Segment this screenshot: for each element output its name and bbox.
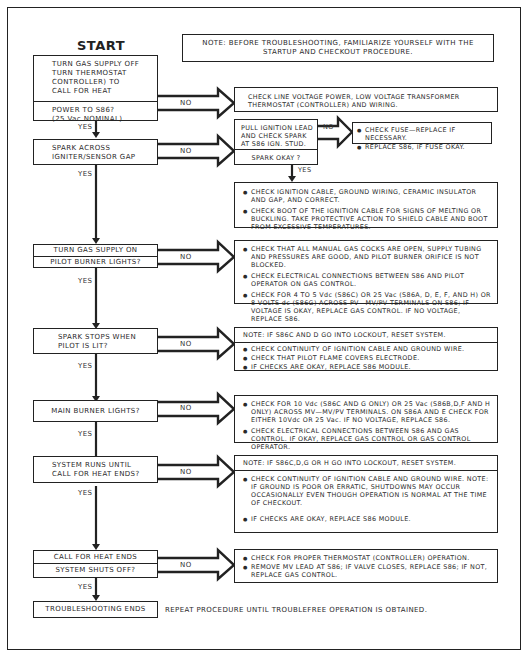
bullet-item: CHECK ELECTRICAL CONNECTIONS BETWEEN S86… bbox=[243, 272, 491, 288]
no-label: NO bbox=[180, 404, 192, 412]
step-3-question: PILOT BURNER LIGHTS? bbox=[34, 256, 157, 267]
question-line: (25 Vac NOMINAL) bbox=[52, 115, 157, 124]
step-7-question: SYSTEM SHUTS OFF? bbox=[34, 563, 157, 575]
yes-label: YES bbox=[78, 123, 92, 131]
bullet-item: IF CHECKS ARE OKAY, REPLACE S86 MODULE. bbox=[243, 363, 491, 371]
step-4-no-result: NOTE: IF S86C AND D GO INTO LOCKOUT, RES… bbox=[234, 327, 498, 371]
end-note: REPEAT PROCEDURE UNTIL TROUBLEFREE OPERA… bbox=[165, 606, 427, 615]
start-label: START bbox=[77, 38, 125, 53]
bullet-item: REMOVE MV LEAD AT S86; IF VALVE CLOSES, … bbox=[243, 563, 491, 579]
no-label: NO bbox=[180, 253, 192, 261]
no-label: NO bbox=[180, 468, 192, 476]
spark-check-action: PULL IGNITION LEAD AND CHECK SPARK AT S8… bbox=[235, 120, 317, 149]
step-7-no-result: CHECK FOR PROPER THERMOSTAT (CONTROLLER)… bbox=[234, 549, 498, 583]
step-1-question: POWER TO S86? (25 Vac NOMINAL) bbox=[34, 101, 157, 125]
bullet-item: REPLACE S86, IF FUSE OKAY. bbox=[357, 143, 491, 151]
action-line: CALL FOR HEAT bbox=[52, 87, 157, 96]
spark-check-box[interactable]: PULL IGNITION LEAD AND CHECK SPARK AT S8… bbox=[234, 119, 318, 165]
question-line: CALL FOR HEAT ENDS? bbox=[52, 470, 157, 479]
step-5-no-result: CHECK FOR 10 Vdc (S86C AND G ONLY) OR 25… bbox=[234, 395, 498, 443]
bullet-item: CHECK FUSE—REPLACE IF NECESSARY. bbox=[357, 126, 491, 142]
no-label: NO bbox=[180, 561, 192, 569]
spark-yes-result: CHECK IGNITION CABLE, GROUND WIRING, CER… bbox=[234, 182, 498, 228]
no-label: NO bbox=[180, 147, 192, 155]
yes-label: YES bbox=[78, 277, 92, 285]
spark-no-result: CHECK FUSE—REPLACE IF NECESSARY. REPLACE… bbox=[352, 122, 492, 144]
bullet-item: CHECK CONTINUITY OF IGNITION CABLE AND G… bbox=[243, 475, 491, 507]
yes-label: YES bbox=[78, 430, 92, 438]
step-4-checks: CHECK CONTINUITY OF IGNITION CABLE AND G… bbox=[235, 342, 497, 371]
action-line: TURN THERMOSTAT bbox=[52, 69, 157, 78]
step-7-action: CALL FOR HEAT ENDS bbox=[34, 551, 157, 563]
bullet-item: CHECK FOR 10 Vdc (S86C AND G ONLY) OR 25… bbox=[243, 400, 491, 424]
end-label: TROUBLESHOOTING ENDS bbox=[34, 605, 157, 614]
bullet-item: CHECK FOR 4 TO 5 Vdc (S86C) OR 25 Vac (S… bbox=[243, 291, 491, 323]
bullet-item: CHECK ELECTRICAL CONNECTIONS BETWEEN S86… bbox=[243, 427, 491, 451]
yes-label: YES bbox=[78, 583, 92, 591]
bullet-item: CHECK CONTINUITY OF IGNITION CABLE AND G… bbox=[243, 345, 491, 353]
step-4-box[interactable]: SPARK STOPS WHEN PILOT IS LIT? bbox=[33, 328, 158, 354]
bullet-item: IF CHECKS ARE OKAY, REPLACE S86 MODULE. bbox=[243, 515, 491, 523]
yes-label: YES bbox=[78, 362, 92, 370]
step-4-note: NOTE: IF S86C AND D GO INTO LOCKOUT, RES… bbox=[235, 328, 497, 342]
result-line: THERMOSTAT (CONTROLLER) AND WIRING. bbox=[248, 101, 497, 109]
result-line: CHECK LINE VOLTAGE POWER, LOW VOLTAGE TR… bbox=[248, 93, 497, 101]
step-2-box[interactable]: SPARK ACROSS IGNITER/SENSOR GAP bbox=[33, 139, 158, 165]
step-6-note: NOTE: IF S86C,D,G OR H GO INTO LOCKOUT, … bbox=[235, 456, 497, 470]
action-line: AND CHECK SPARK bbox=[241, 132, 317, 140]
step-5-box[interactable]: MAIN BURNER LIGHTS? bbox=[33, 400, 158, 422]
action-line: TURN GAS SUPPLY OFF bbox=[52, 60, 157, 69]
step-3-no-result: CHECK THAT ALL MANUAL GAS COCKS ARE OPEN… bbox=[234, 240, 498, 304]
action-line: AT S86 IGN. STUD. bbox=[241, 140, 317, 148]
bullet-item: CHECK THAT ALL MANUAL GAS COCKS ARE OPEN… bbox=[243, 245, 491, 269]
step-7-box[interactable]: CALL FOR HEAT ENDS SYSTEM SHUTS OFF? bbox=[33, 550, 158, 578]
question-line: SPARK ACROSS bbox=[52, 144, 157, 153]
end-box[interactable]: TROUBLESHOOTING ENDS bbox=[33, 601, 158, 618]
bullet-item: CHECK BOOT OF THE IGNITION CABLE FOR SIG… bbox=[243, 207, 491, 231]
step-6-checks: CHECK CONTINUITY OF IGNITION CABLE AND G… bbox=[235, 470, 497, 523]
action-line: CONTROLLER) TO bbox=[52, 78, 157, 87]
step-6-no-result: NOTE: IF S86C,D,G OR H GO INTO LOCKOUT, … bbox=[234, 455, 498, 533]
step-1-box[interactable]: TURN GAS SUPPLY OFF TURN THERMOSTAT CONT… bbox=[33, 55, 158, 121]
question-line: SPARK STOPS WHEN bbox=[58, 333, 157, 342]
step-5-question: MAIN BURNER LIGHTS? bbox=[34, 407, 157, 416]
step-3-action: TURN GAS SUPPLY ON bbox=[34, 245, 157, 256]
note-top: NOTE: BEFORE TROUBLESHOOTING, FAMILIARIZ… bbox=[182, 34, 494, 62]
question-line: IGNITER/SENSOR GAP bbox=[52, 153, 157, 162]
yes-label: YES bbox=[298, 166, 311, 174]
bullet-item: CHECK FOR PROPER THERMOSTAT (CONTROLLER)… bbox=[243, 554, 491, 562]
step-1-no-result: CHECK LINE VOLTAGE POWER, LOW VOLTAGE TR… bbox=[234, 87, 498, 112]
step-1-action: TURN GAS SUPPLY OFF TURN THERMOSTAT CONT… bbox=[34, 56, 157, 101]
bullet-item: CHECK IGNITION CABLE, GROUND WIRING, CER… bbox=[243, 188, 491, 204]
action-line: PULL IGNITION LEAD bbox=[241, 124, 317, 132]
yes-label: YES bbox=[78, 170, 92, 178]
no-label: NO bbox=[323, 123, 334, 131]
no-label: NO bbox=[180, 340, 192, 348]
step-6-box[interactable]: SYSTEM RUNS UNTIL CALL FOR HEAT ENDS? bbox=[33, 456, 158, 483]
spark-okay-question: SPARK OKAY ? bbox=[235, 149, 317, 165]
yes-label: YES bbox=[78, 489, 92, 497]
note-top-line-2: STARTUP AND CHECKOUT PROCEDURE. bbox=[183, 48, 493, 57]
question-line: PILOT IS LIT? bbox=[58, 342, 157, 351]
bullet-item: CHECK THAT PILOT FLAME COVERS ELECTRODE. bbox=[243, 354, 491, 362]
note-top-line-1: NOTE: BEFORE TROUBLESHOOTING, FAMILIARIZ… bbox=[183, 39, 493, 48]
question-line: POWER TO S86? bbox=[52, 106, 157, 115]
question-line: SYSTEM RUNS UNTIL bbox=[52, 461, 157, 470]
no-label: NO bbox=[180, 99, 192, 107]
step-3-box[interactable]: TURN GAS SUPPLY ON PILOT BURNER LIGHTS? bbox=[33, 244, 158, 268]
